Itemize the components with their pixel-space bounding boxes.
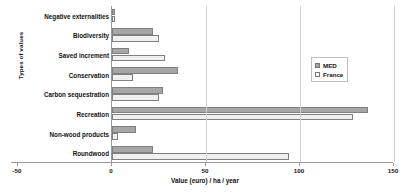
category-label: Biodiversity: [73, 32, 109, 39]
legend-label-france: France: [323, 71, 343, 78]
category-label: Non-wood products: [50, 130, 109, 137]
bar-med: [112, 87, 163, 94]
bar-france: [112, 74, 133, 81]
x-tick: [17, 163, 18, 166]
category-label: Negative externalities: [44, 12, 109, 19]
bar-france: [112, 35, 159, 42]
x-axis-ticks: -50050100150: [0, 163, 410, 177]
bar-row: Non-wood products: [112, 124, 394, 144]
x-tick: [205, 163, 206, 166]
x-tick-label: 100: [294, 167, 304, 174]
legend-item-france: France: [315, 70, 343, 78]
bar-france: [112, 133, 118, 140]
x-tick: [393, 163, 394, 166]
x-tick: [299, 163, 300, 166]
x-tick-label: 0: [109, 167, 112, 174]
bar-row: Conservation: [112, 65, 394, 85]
x-tick: [111, 163, 112, 166]
bar-med: [112, 9, 115, 16]
x-tick-label: 150: [388, 167, 398, 174]
legend: MED France: [311, 57, 348, 82]
bar-row: Saved increment: [112, 45, 394, 65]
bar-france: [112, 16, 115, 23]
category-label: Conservation: [69, 71, 109, 78]
bar-med: [112, 48, 129, 55]
gridline: [394, 6, 395, 162]
x-tick-label: -50: [13, 167, 22, 174]
category-label: Saved increment: [59, 52, 109, 59]
legend-label-med: MED: [323, 62, 337, 69]
bar-row: Negative externalities: [112, 6, 394, 26]
bar-med: [112, 107, 368, 114]
category-label: Carbon sequestration: [44, 91, 109, 98]
y-axis-title: Types of values: [17, 8, 24, 104]
bar-row: Roundwood: [112, 143, 394, 163]
gridline: [300, 6, 301, 162]
bar-chart: Types of values Negative externalitiesBi…: [0, 0, 410, 196]
bar-rows: Negative externalitiesBiodiversitySaved …: [112, 6, 394, 163]
plot-area: Negative externalitiesBiodiversitySaved …: [111, 6, 393, 163]
bar-france: [112, 153, 289, 160]
bar-row: Recreation: [112, 104, 394, 124]
category-label: Roundwood: [73, 150, 109, 157]
bar-med: [112, 126, 136, 133]
x-tick-label: 50: [202, 167, 209, 174]
bar-row: Carbon sequestration: [112, 85, 394, 105]
legend-item-med: MED: [315, 61, 343, 69]
bar-france: [112, 55, 165, 62]
bar-france: [112, 94, 159, 101]
bar-row: Biodiversity: [112, 26, 394, 46]
gridline: [206, 6, 207, 162]
bar-med: [112, 146, 153, 153]
category-label: Recreation: [76, 110, 109, 117]
bar-med: [112, 67, 178, 74]
med-swatch-icon: [315, 63, 320, 68]
bar-france: [112, 114, 353, 121]
x-axis-title: Value (euro) / ha / year: [0, 177, 410, 184]
bar-med: [112, 28, 153, 35]
france-swatch-icon: [315, 72, 320, 77]
